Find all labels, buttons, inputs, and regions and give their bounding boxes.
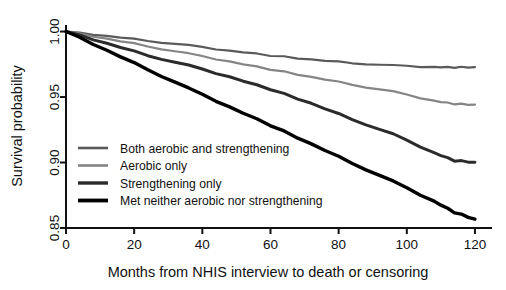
y-axis-title: Survival probability: [9, 64, 25, 186]
legend-label-1: Both aerobic and strengthening: [120, 142, 289, 156]
legend-label-3: Strengthening only: [120, 177, 223, 191]
survival-curves: [66, 32, 475, 220]
y-tick-label: 1.00: [47, 18, 62, 44]
x-tick-label: 80: [331, 237, 346, 252]
y-tick-label: 0.85: [47, 215, 62, 241]
x-tick-label: 120: [464, 237, 487, 252]
x-tick-label: 20: [127, 237, 142, 252]
x-axis-title: Months from NHIS interview to death or c…: [108, 264, 429, 280]
survival-chart: 0.850.900.951.00 020406080100120 Both ae…: [0, 0, 506, 290]
x-tick-label: 60: [263, 237, 278, 252]
x-tick-label: 0: [62, 237, 70, 252]
legend-label-4: Met neither aerobic nor strengthening: [120, 194, 323, 208]
y-tick-label: 0.95: [47, 84, 62, 110]
survival-curve-4: [66, 32, 475, 220]
y-tick-label: 0.90: [47, 149, 62, 175]
chart-canvas: 0.850.900.951.00 020406080100120 Both ae…: [0, 0, 506, 290]
x-axis-tick-labels: 020406080100120: [62, 237, 486, 252]
x-tick-label: 100: [396, 237, 419, 252]
legend-label-2: Aerobic only: [120, 159, 188, 173]
chart-legend: Both aerobic and strengtheningAerobic on…: [78, 142, 323, 209]
x-tick-label: 40: [195, 237, 210, 252]
survival-curve-2: [66, 32, 475, 105]
y-axis-tick-labels: 0.850.900.951.00: [47, 18, 62, 241]
